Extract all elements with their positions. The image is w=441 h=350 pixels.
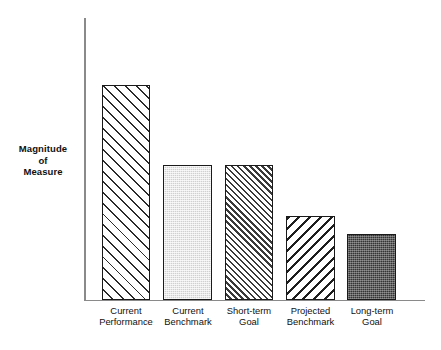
bar-current-performance[interactable] [102, 85, 150, 300]
x-tick-line-1: Long-term [333, 305, 411, 316]
bar-current-benchmark[interactable] [163, 165, 212, 300]
bar-projected-benchmark[interactable] [286, 216, 335, 300]
x-tick-line-2: Goal [333, 316, 411, 327]
bar-chart-figure: Magnitude of Measure Current Performance… [0, 0, 441, 350]
bar-long-term-goal[interactable] [347, 234, 396, 300]
plot-area [0, 0, 441, 350]
x-tick-label-long-term-goal: Long-term Goal [333, 305, 411, 328]
bar-short-term-goal[interactable] [225, 165, 273, 300]
